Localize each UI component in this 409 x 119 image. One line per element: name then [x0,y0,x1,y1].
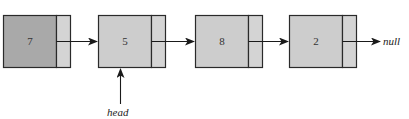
null-label: null [383,35,400,47]
node-value: 7 [27,35,33,47]
node-value: 5 [122,35,128,47]
node-value: 2 [313,35,319,47]
head-label: head [107,106,129,118]
linked-list-diagram: 7 5 8 2 null head [0,0,409,119]
node-value: 8 [219,35,225,47]
